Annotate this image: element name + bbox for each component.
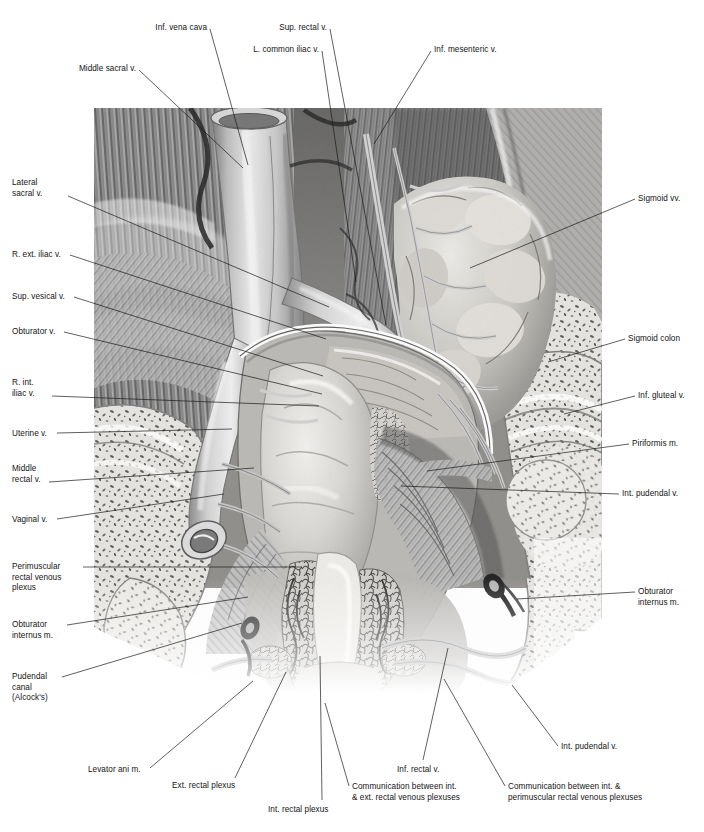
label-l-common-iliac-v: L. common iliac v. — [253, 45, 319, 56]
label-obturator-v: Obturator v. — [12, 327, 55, 338]
label-r-ext-iliac-v: R. ext. iliac v. — [12, 250, 61, 261]
label-sigmoid-colon: Sigmoid colon — [628, 334, 680, 345]
leader-int-pudendal-v-bottom — [512, 685, 558, 746]
anatomical-figure: Middle sacral v.Inf. vena cavaL. common … — [0, 0, 704, 832]
label-vaginal-v: Vaginal v. — [12, 515, 47, 526]
label-inf-gluteal-v: Inf. gluteal v. — [638, 391, 685, 402]
label-uterine-v: Uterine v. — [12, 429, 47, 440]
label-int-rectal-plexus: Int. rectal plexus — [268, 805, 329, 816]
label-r-int-iliac-v: R. int. iliac v. — [12, 378, 35, 399]
label-pudendal-canal-alcocks: Pudendal canal (Alcock's) — [12, 672, 48, 704]
label-sup-rectal-v: Sup. rectal v. — [279, 23, 327, 34]
label-inf-mesenteric-v: Inf. mesenteric v. — [434, 45, 497, 56]
label-piriformis-m: Piriformis m. — [632, 439, 678, 450]
label-sigmoid-vv: Sigmoid vv. — [638, 194, 680, 205]
label-middle-sacral-v: Middle sacral v. — [79, 64, 136, 75]
label-ext-rectal-plexus: Ext. rectal plexus — [172, 781, 235, 792]
leader-communication-int-ext — [325, 703, 349, 786]
leader-communication-int-perimuscular — [444, 679, 505, 786]
label-communication-int-ext: Communication between int. & ext. rectal… — [352, 782, 460, 803]
label-lateral-sacral-v: Lateral sacral v. — [12, 178, 42, 199]
label-inf-rectal-v: Inf. rectal v. — [397, 765, 439, 776]
leader-levator-ani-m — [150, 681, 253, 768]
label-inf-vena-cava: Inf. vena cava — [155, 23, 207, 34]
label-levator-ani-m: Levator ani m. — [88, 765, 141, 776]
label-obturator-internus-m-left: Obturator internus m. — [12, 620, 53, 641]
illustration-artwork — [94, 108, 602, 694]
label-communication-int-perimuscular: Communication between int. & perimuscula… — [508, 782, 642, 803]
label-perimuscular-rectal-venous-plexus: Perimuscular rectal venous plexus — [12, 562, 61, 594]
label-middle-rectal-v: Middle rectal v. — [12, 464, 41, 485]
label-sup-vesical-v: Sup. vesical v. — [12, 292, 65, 303]
label-obturator-internus-m-right: Obturator internus m. — [638, 587, 679, 608]
label-int-pudendal-v-bottom: Int. pudendal v. — [561, 742, 617, 753]
label-int-pudendal-v-right: Int. pudendal v. — [622, 489, 678, 500]
